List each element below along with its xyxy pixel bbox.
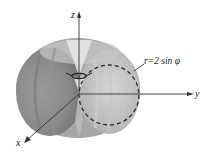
- torus-surface: [16, 38, 140, 138]
- equation-label: r=2 sin φ: [144, 57, 180, 67]
- y-axis-label: y: [195, 89, 199, 99]
- label-leader: [134, 64, 144, 71]
- y-arrow-icon: [187, 92, 194, 96]
- z-axis-label: z: [71, 10, 75, 20]
- x-axis-label: x: [16, 138, 20, 148]
- torus-diagram: [0, 0, 209, 161]
- z-arrow-icon: [77, 11, 81, 18]
